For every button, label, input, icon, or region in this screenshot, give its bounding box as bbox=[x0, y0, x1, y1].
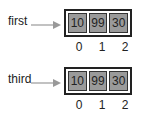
arrow-icon bbox=[31, 79, 61, 87]
array-cell: 99 bbox=[89, 13, 108, 33]
index-label: 2 bbox=[115, 98, 135, 112]
variable-label: third bbox=[8, 72, 31, 86]
index-label: 1 bbox=[92, 98, 112, 112]
array-cell: 30 bbox=[109, 71, 128, 91]
array-cell: 99 bbox=[89, 71, 108, 91]
array-cell: 30 bbox=[109, 13, 128, 33]
arrow-icon bbox=[31, 21, 61, 29]
index-label: 0 bbox=[69, 40, 89, 54]
array-cell: 10 bbox=[68, 71, 87, 91]
index-label: 2 bbox=[115, 40, 135, 54]
array-box: 10 99 30 bbox=[64, 67, 132, 95]
index-label: 0 bbox=[69, 98, 89, 112]
array-diagram-first: first 10 99 30 0 1 2 bbox=[0, 0, 149, 52]
array-diagram-third: third 10 99 30 0 1 2 bbox=[0, 58, 149, 110]
variable-label: first bbox=[8, 14, 27, 28]
array-cell: 10 bbox=[68, 13, 87, 33]
array-box: 10 99 30 bbox=[64, 9, 132, 37]
index-label: 1 bbox=[92, 40, 112, 54]
